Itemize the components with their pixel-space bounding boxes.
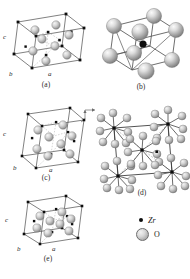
cell-back-face xyxy=(18,14,84,36)
cell-edge-v1 xyxy=(14,22,18,54)
panel-c-axis-c: c xyxy=(3,130,6,138)
o-sphere-icon xyxy=(136,228,149,241)
panel-d-caption: (d) xyxy=(120,188,164,197)
cell-edge-v3 xyxy=(80,28,84,60)
panel-e-svg xyxy=(8,192,92,252)
panel-e-axis-b: b xyxy=(17,245,21,253)
panel-a-axis-a: a xyxy=(48,70,52,78)
panel-c-caption: (c) xyxy=(26,173,66,182)
panel-b-caption: (b) xyxy=(118,82,164,91)
panel-d-svg xyxy=(94,106,190,192)
zr-dot-icon xyxy=(139,218,143,222)
legend: Zr O xyxy=(136,213,188,241)
panel-e-unit-cell xyxy=(8,192,92,252)
panel-d-polyhedral-network xyxy=(94,106,190,192)
panel-a-axis-c: c xyxy=(3,33,6,41)
panel-c-axis-b: b xyxy=(13,164,17,172)
panel-a-svg xyxy=(4,8,92,74)
panel-e-axis-a: a xyxy=(52,245,56,253)
panel-e-caption: (e) xyxy=(28,254,68,263)
figure-canvas: c b a (a) xyxy=(0,0,190,279)
legend-item-o: O xyxy=(136,227,188,241)
legend-item-zr: Zr xyxy=(136,213,188,227)
o-atom-group xyxy=(33,208,75,237)
panel-a-axis-b: b xyxy=(9,70,13,78)
legend-label-o: O xyxy=(154,230,160,239)
cell-edge-v2 xyxy=(62,14,66,46)
panel-b-coordination-cube xyxy=(96,6,188,82)
zr-center-atom xyxy=(139,40,146,47)
panel-b-svg xyxy=(96,6,188,82)
panel-a-caption: (a) xyxy=(26,80,66,89)
panel-e-axis-c: c xyxy=(5,216,8,224)
legend-label-zr: Zr xyxy=(148,216,156,225)
panel-a-unit-cell xyxy=(4,8,92,74)
o-atom-group xyxy=(33,121,76,160)
